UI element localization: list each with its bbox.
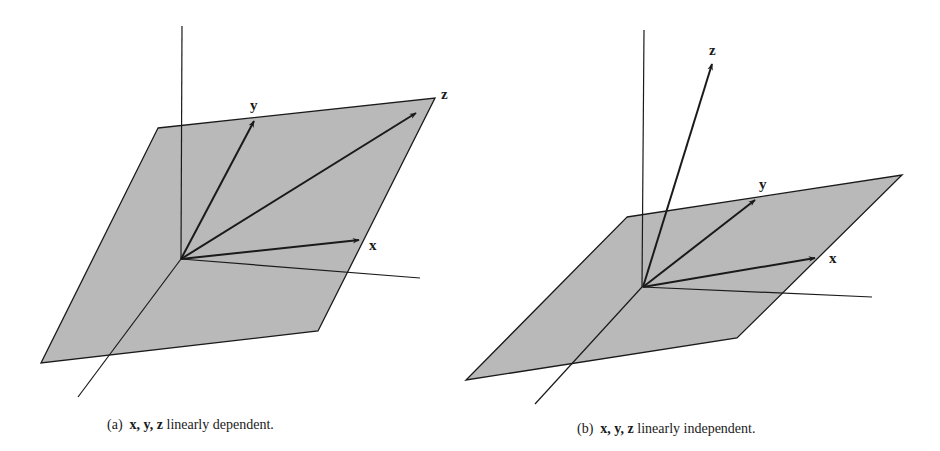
label-x-a: x <box>369 237 377 253</box>
panel-b-diagram: z y x <box>466 30 902 404</box>
label-y-b: y <box>759 176 767 192</box>
caption-b-prefix: (b) <box>577 421 593 436</box>
caption-a: (a) x, y, z linearly dependent. <box>107 417 274 433</box>
label-z-a: z <box>441 86 448 102</box>
panel-a-diagram: y z x <box>41 26 448 397</box>
caption-a-prefix: (a) <box>107 417 123 432</box>
label-x-b: x <box>829 250 837 266</box>
label-y-a: y <box>250 97 258 113</box>
caption-b-text: linearly independent. <box>637 421 755 436</box>
caption-b-vars: x, y, z <box>600 421 633 436</box>
caption-a-text: linearly dependent. <box>167 417 274 432</box>
plane-b <box>466 175 902 380</box>
figure-canvas: y z x z y x <box>0 0 940 451</box>
label-z-b: z <box>709 42 716 58</box>
caption-a-vars: x, y, z <box>130 417 163 432</box>
caption-b: (b) x, y, z linearly independent. <box>577 421 755 437</box>
